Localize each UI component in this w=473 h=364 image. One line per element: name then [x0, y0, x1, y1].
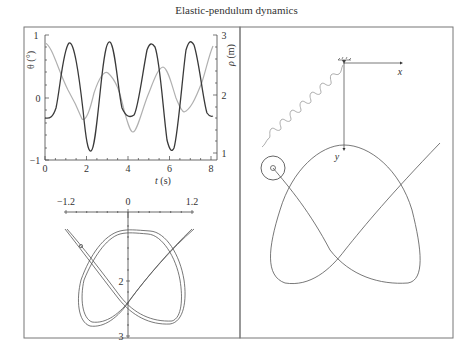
left-tick-0: 0: [36, 93, 41, 104]
theta-axis-label: θ (°): [25, 51, 37, 69]
x-tick-2: 2: [84, 163, 89, 174]
xy-y-tick-3: 3: [119, 331, 124, 342]
right-tick-2: 2: [222, 90, 227, 101]
theta-series-line: [45, 42, 213, 151]
x-axis-label: t (s): [155, 175, 171, 187]
x-tick-4: 4: [126, 163, 131, 174]
xy-x-tick-neg1.2: −1.2: [57, 196, 75, 207]
x-tick-0: 0: [43, 163, 48, 174]
left-panel-frame: [24, 27, 240, 338]
left-tick-neg1: −1: [30, 155, 41, 166]
xy-x-tick-0: 0: [126, 196, 131, 207]
right-tick-3: 3: [222, 30, 227, 41]
right-tick-1: 1: [222, 148, 227, 159]
left-tick-1: 1: [34, 30, 39, 41]
xy-trajectory-plot: −1.2 0 1.2 2 3: [57, 196, 198, 342]
rho-series-line: [45, 43, 213, 132]
y-axis-letter: y: [334, 151, 340, 162]
figure-canvas: 1 0 −1 3 2 1 0 2 4 6 8 t (s) θ (°) ρ (m)…: [0, 0, 473, 364]
time-series-plot: 1 0 −1 3 2 1 0 2 4 6 8 t (s) θ (°) ρ (m): [25, 30, 237, 187]
pendulum-scene: x y: [261, 57, 440, 284]
rho-axis-label: ρ (m): [225, 44, 237, 67]
xy-y-tick-2: 2: [119, 276, 124, 287]
spring-icon: [262, 65, 343, 147]
x-tick-8: 8: [209, 163, 214, 174]
xy-x-tick-1.2: 1.2: [186, 196, 199, 207]
pendulum-trajectory-line: [270, 143, 440, 284]
xy-trajectory-line-2: [67, 229, 194, 322]
right-panel-frame: [240, 27, 453, 338]
x-tick-6: 6: [167, 163, 172, 174]
x-axis-letter: x: [397, 66, 403, 77]
